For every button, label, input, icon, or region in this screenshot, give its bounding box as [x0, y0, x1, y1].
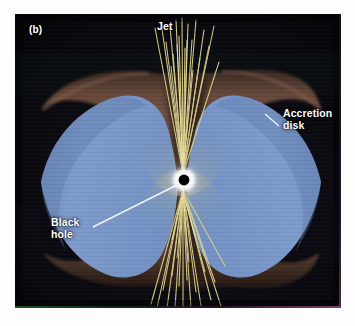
panel-right-edge	[339, 14, 341, 308]
figure-page: (b) Jet Accretion disk Black hole	[0, 0, 355, 326]
panel-bottom-edge	[15, 306, 341, 308]
astronomy-image-panel: (b) Jet Accretion disk Black hole	[15, 14, 341, 308]
black-hole-illustration	[15, 14, 341, 308]
